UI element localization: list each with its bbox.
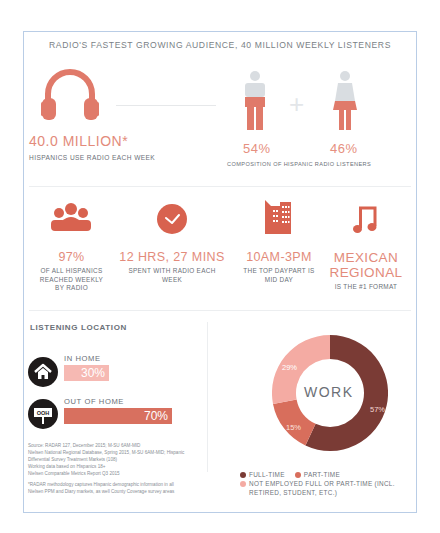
part-time-pct: 15%	[286, 423, 301, 432]
female-figure-icon	[330, 70, 360, 132]
stat-time-caption-line: SPENT WITH RADIO EACH	[116, 267, 228, 276]
plus-sign: +	[289, 94, 304, 114]
buildings-icon	[265, 198, 291, 234]
source-line: Source: RADAR 127, December 2015; M-SU 6…	[28, 442, 208, 449]
stat-reach-caption-line: OF ALL HISPANICS	[24, 267, 119, 276]
out-of-home-value: 70%	[144, 409, 168, 423]
part-time-swatch	[295, 472, 301, 478]
in-home-bar: 30%	[64, 365, 109, 381]
legend-part-time: PART-TIME	[295, 471, 340, 478]
section-divider	[29, 186, 411, 187]
full-time-pct: 57%	[370, 405, 385, 414]
footnote-line: Nielsen PPM and Diary markets, as well C…	[28, 488, 208, 495]
stat-time: 12 HRS, 27 MINS SPENT WITH RADIO EACH WE…	[116, 250, 228, 284]
stat-reach-caption-line: BY RADIO	[24, 284, 119, 293]
group-icon	[51, 203, 91, 233]
stat-format-value-line: MEXICAN	[320, 250, 412, 265]
stat-daypart-value: 10AM-3PM	[224, 250, 334, 264]
listeners-value: 40.0 MILLION*	[29, 133, 128, 149]
not-employed-pct: 29%	[282, 363, 297, 372]
out-of-home-bar: 70%	[64, 408, 172, 424]
listening-location-heading: LISTENING LOCATION	[30, 323, 127, 332]
stat-format-caption-line: IS THE #1 FORMAT	[320, 283, 412, 292]
source-line: Differential Survey Treatment Markets (1…	[28, 456, 208, 463]
legend-full-time: FULL-TIME	[240, 471, 285, 478]
billboard-icon: OOH	[28, 399, 58, 429]
in-home-value: 30%	[81, 366, 105, 380]
not-employed-swatch	[240, 481, 246, 487]
footnote-line: *RADAR methodology captures Hispanic dem…	[28, 481, 208, 488]
source-line: Working data based on Hispanics 18+	[28, 463, 208, 470]
composition-caption: COMPOSITION OF HISPANIC RADIO LISTENERS	[227, 161, 371, 167]
listeners-caption: HISPANICS USE RADIO EACH WEEK	[29, 154, 155, 161]
in-home-label: IN HOME	[64, 354, 101, 363]
donut-center-label: WORK	[304, 384, 354, 400]
home-icon	[28, 357, 58, 387]
infographic-frame: RADIO'S FASTEST GROWING AUDIENCE, 40 MIL…	[23, 31, 417, 513]
stat-daypart-caption-line: MID DAY	[224, 276, 334, 285]
stat-reach: 97% OF ALL HISPANICS REACHED WEEKLY BY R…	[24, 250, 119, 293]
donut-legend: FULL-TIME PART-TIME NOT EMPLOYED FULL OR…	[240, 470, 416, 497]
female-pct: 46%	[330, 141, 358, 156]
ooh-icon-badge: OOH	[28, 399, 58, 429]
source-line: Nielsen Comparable Metrics Report Q3 201…	[28, 470, 208, 477]
full-time-swatch	[240, 472, 246, 478]
stat-time-caption-line: WEEK	[116, 276, 228, 285]
stat-reach-caption-line: REACHED WEEKLY	[24, 276, 119, 285]
connector-line	[116, 105, 216, 106]
stat-daypart: 10AM-3PM THE TOP DAYPART IS MID DAY	[224, 250, 334, 284]
clock-icon	[156, 203, 188, 235]
legend-not-employed: NOT EMPLOYED FULL OR PART-TIME (INCL.	[240, 479, 416, 488]
infographic-title: RADIO'S FASTEST GROWING AUDIENCE, 40 MIL…	[24, 40, 416, 50]
stat-format-value-line: REGIONAL	[320, 265, 412, 280]
home-icon-badge	[28, 357, 58, 387]
source-line: Nielsen National Regional Database, Spri…	[28, 449, 208, 456]
music-note-icon	[353, 204, 377, 234]
male-pct: 54%	[243, 141, 271, 156]
stat-reach-value: 97%	[24, 250, 119, 264]
sources-block: Source: RADAR 127, December 2015; M-SU 6…	[28, 442, 208, 495]
section-divider	[29, 310, 411, 311]
male-figure-icon	[242, 70, 268, 132]
stat-daypart-caption-line: THE TOP DAYPART IS	[224, 267, 334, 276]
legend-not-employed-line-2: RETIRED, STUDENT, ETC.)	[240, 488, 416, 497]
stat-time-value: 12 HRS, 27 MINS	[116, 250, 228, 264]
headphones-icon	[38, 64, 102, 124]
out-of-home-label: OUT OF HOME	[64, 397, 124, 406]
svg-text:OOH: OOH	[37, 410, 50, 416]
stat-format: MEXICAN REGIONAL IS THE #1 FORMAT	[320, 250, 412, 292]
